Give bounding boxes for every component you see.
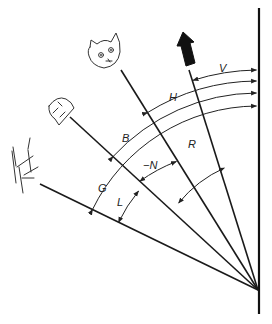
bush-icon bbox=[12, 138, 38, 193]
label-L: L bbox=[117, 196, 123, 208]
label-G: G bbox=[98, 182, 107, 194]
arc-G bbox=[90, 106, 257, 214]
label-R: R bbox=[188, 138, 196, 150]
label-B: B bbox=[122, 132, 129, 144]
dome-icon bbox=[49, 98, 74, 125]
label-H: H bbox=[169, 91, 177, 103]
cat-icon bbox=[88, 33, 120, 68]
angle-diagram: V H B G R −N L bbox=[0, 0, 272, 324]
arrow-icon bbox=[177, 32, 195, 66]
arc-H bbox=[143, 81, 257, 114]
sight-line-dome bbox=[70, 117, 258, 290]
label-N: −N bbox=[143, 159, 157, 171]
arc-B bbox=[110, 93, 257, 160]
sight-line-arrow bbox=[189, 70, 258, 290]
